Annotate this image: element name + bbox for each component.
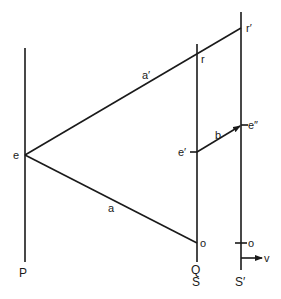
label-a-prime: a′: [142, 69, 150, 81]
label-v: v: [264, 252, 270, 264]
label-e-prime: e′: [178, 146, 186, 158]
label-r: r: [201, 53, 205, 65]
label-r-prime: r′: [246, 22, 252, 34]
label-e: e: [13, 149, 19, 161]
label-a: a: [108, 202, 115, 214]
label-e-double-prime: e″: [248, 119, 258, 131]
ray-a: [25, 155, 197, 243]
label-s-prime: S′: [235, 275, 246, 289]
label-b: b: [215, 129, 221, 141]
label-s: S: [192, 275, 200, 289]
label-p: P: [19, 266, 27, 280]
label-o-qs: o: [200, 237, 206, 249]
ray-a-prime: [25, 28, 241, 155]
diagram-canvas: e a′ a r r′ e′ b e″ o o v P Q S S′: [0, 0, 281, 299]
label-o-s-prime: o: [248, 237, 254, 249]
